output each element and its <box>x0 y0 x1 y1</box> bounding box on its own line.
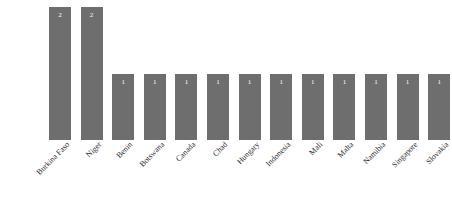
x-axis-tick-label: Niger <box>84 140 103 159</box>
bar-group[interactable]: 2 <box>81 0 103 140</box>
bar-group[interactable]: 1 <box>365 0 387 140</box>
x-axis-tick-label: Hungary <box>235 140 261 166</box>
bar-value-label: 1 <box>144 78 166 86</box>
bar[interactable] <box>49 7 71 140</box>
bar-group[interactable]: 1 <box>428 0 450 140</box>
plot-area: 2211111111111 <box>0 0 452 140</box>
bar-group[interactable]: 1 <box>112 0 134 140</box>
bar-value-label: 1 <box>365 78 387 86</box>
bar[interactable] <box>81 7 103 140</box>
bar-value-label: 1 <box>207 78 229 86</box>
bar-group[interactable]: 1 <box>333 0 355 140</box>
x-axis-tick-label: Chad <box>211 140 229 158</box>
bar-chart: 2211111111111 Burkina FasoNigerBeninBots… <box>0 0 452 211</box>
x-axis-tick-label: Singapore <box>390 140 419 169</box>
bar-value-label: 1 <box>397 78 419 86</box>
x-axis-tick-label: Botswana <box>137 140 166 169</box>
bar-value-label: 1 <box>333 78 355 86</box>
bar-group[interactable]: 1 <box>270 0 292 140</box>
x-axis-tick-label: Malta <box>336 140 356 160</box>
bar-group[interactable]: 1 <box>302 0 324 140</box>
bar-value-label: 1 <box>112 78 134 86</box>
x-axis-tick-label: Benin <box>115 140 135 160</box>
x-axis-tick-label: Namibia <box>362 140 388 166</box>
bar-value-label: 1 <box>270 78 292 86</box>
bar-value-label: 1 <box>428 78 450 86</box>
bar-group[interactable]: 1 <box>207 0 229 140</box>
bar-value-label: 2 <box>49 11 71 19</box>
x-axis-tick-label: Burkina Faso <box>35 140 72 177</box>
x-axis-tick-label: Mali <box>307 140 324 157</box>
bar-group[interactable]: 2 <box>49 0 71 140</box>
bar-value-label: 1 <box>239 78 261 86</box>
bar-group[interactable]: 1 <box>397 0 419 140</box>
bar-value-label: 2 <box>81 11 103 19</box>
x-axis-tick-labels: Burkina FasoNigerBeninBotswanaCanadaChad… <box>0 140 452 211</box>
bar-value-label: 1 <box>302 78 324 86</box>
bar-group[interactable]: 1 <box>144 0 166 140</box>
x-axis-tick-label: Slovakia <box>424 140 450 166</box>
x-axis-tick-label: Canada <box>174 140 197 163</box>
bar-value-label: 1 <box>175 78 197 86</box>
bar-group[interactable]: 1 <box>239 0 261 140</box>
x-axis-tick-label: Indonesia <box>264 140 292 168</box>
bar-group[interactable]: 1 <box>175 0 197 140</box>
